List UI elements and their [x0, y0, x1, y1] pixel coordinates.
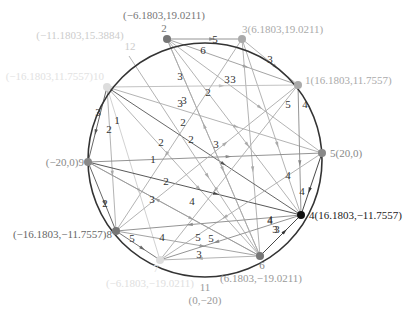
- edge-weight-label: 5: [129, 232, 135, 244]
- coordinate-label: (6.1803,−19.0211): [220, 272, 302, 285]
- arrowhead-icon: [308, 187, 311, 193]
- edge-8-1: [116, 85, 298, 231]
- node-label-4: 4(16.1803,−11.7557): [309, 209, 402, 222]
- edge-weight-label: 5: [212, 33, 218, 45]
- arrowhead-icon: [226, 155, 232, 158]
- edge-4-7: [160, 215, 301, 260]
- node-label-2: 2: [161, 22, 167, 34]
- edge-weight-label: 2: [158, 136, 164, 148]
- coordinate-label: (−6.1803,−19.0211): [106, 277, 194, 290]
- edge-weight-label: 2: [180, 116, 186, 128]
- node-label-10: (−16.1803,11.7557)10: [6, 70, 105, 83]
- edge-weight-label: 2: [163, 175, 169, 187]
- edge-weight-label: 2: [188, 133, 194, 145]
- coordinate-label: (−6.1803,19.0211): [123, 9, 205, 22]
- arrowhead-icon: [242, 64, 248, 68]
- edge-10-9: [88, 87, 107, 162]
- edge-weight-label: 4: [302, 98, 308, 110]
- edge-weight-label: 5: [285, 98, 291, 110]
- node-9: [84, 158, 92, 166]
- graph-diagram: 5633233533222321123244544445433353 1(16.…: [0, 0, 411, 313]
- edge-3-4: [242, 39, 301, 215]
- node-label-6: 6: [259, 259, 265, 271]
- edge-weight-label: 2: [205, 86, 211, 98]
- edge-weight-label: 4: [285, 169, 291, 181]
- node-label-8: (−16.1803,−11.7557)8: [13, 228, 113, 241]
- edge-weight-label: 2: [102, 197, 108, 209]
- edge-weight-label: 3: [177, 70, 183, 82]
- edge-3-6: [242, 39, 260, 256]
- edge-weight-label: 3: [230, 73, 236, 85]
- edge-6-7: [160, 256, 260, 260]
- edge-weight-label: 3: [149, 193, 155, 205]
- node-8: [112, 227, 120, 235]
- arrowhead-icon: [139, 246, 145, 251]
- edge-weight-label: 3: [267, 53, 273, 65]
- node-label-9: (−20,0)9: [46, 156, 85, 169]
- node-3: [238, 35, 246, 43]
- edge-weight-label: 3: [272, 223, 278, 235]
- edge-weight-label: 5: [195, 231, 201, 243]
- coordinate-label: (−11.1803,15.3884): [36, 29, 124, 42]
- edges-layer: [88, 37, 322, 260]
- edge-weight-label: 3: [95, 106, 101, 118]
- edge-weight-label: 4: [189, 195, 195, 207]
- arrowhead-icon: [298, 160, 301, 166]
- coordinate-label: (0,−20): [189, 294, 222, 307]
- edge-9-5: [88, 153, 322, 162]
- edge-weight-label: 3: [213, 138, 219, 150]
- edge-weight-label: 4: [159, 231, 165, 243]
- node-label-12: 12: [125, 40, 136, 52]
- node-5: [318, 149, 326, 157]
- node-label-11: 11: [200, 281, 211, 293]
- arrowhead-icon: [203, 123, 207, 129]
- node-label-3: 3(6.1803,19.0211): [242, 23, 324, 36]
- node-label-5: 5(20,0): [330, 147, 362, 160]
- edge-weight-label: 3: [177, 97, 183, 109]
- arrowhead-icon: [275, 141, 278, 147]
- node-label-7: 7: [153, 262, 159, 274]
- edge-weight-label: 4: [299, 185, 305, 197]
- edge-weight-label: 1: [114, 114, 120, 126]
- edge-weight-label: 5: [208, 232, 214, 244]
- edge-weight-label: 2: [106, 123, 112, 135]
- node-label-1: 1(16.1803,11.7557): [305, 74, 392, 87]
- edge-weight-label: 6: [200, 44, 206, 56]
- edge-weight-label: 3: [196, 248, 202, 260]
- nodes-layer: [84, 35, 326, 264]
- node-2: [163, 35, 171, 43]
- edge-10-8: [107, 87, 116, 231]
- node-1: [294, 81, 302, 89]
- arrowhead-icon: [233, 124, 239, 127]
- arrowhead-icon: [95, 129, 98, 135]
- edge-weight-label: 1: [150, 153, 156, 165]
- node-10: [103, 83, 111, 91]
- arrowhead-icon: [213, 240, 219, 243]
- node-4: [297, 211, 305, 219]
- arrowhead-icon: [205, 173, 210, 179]
